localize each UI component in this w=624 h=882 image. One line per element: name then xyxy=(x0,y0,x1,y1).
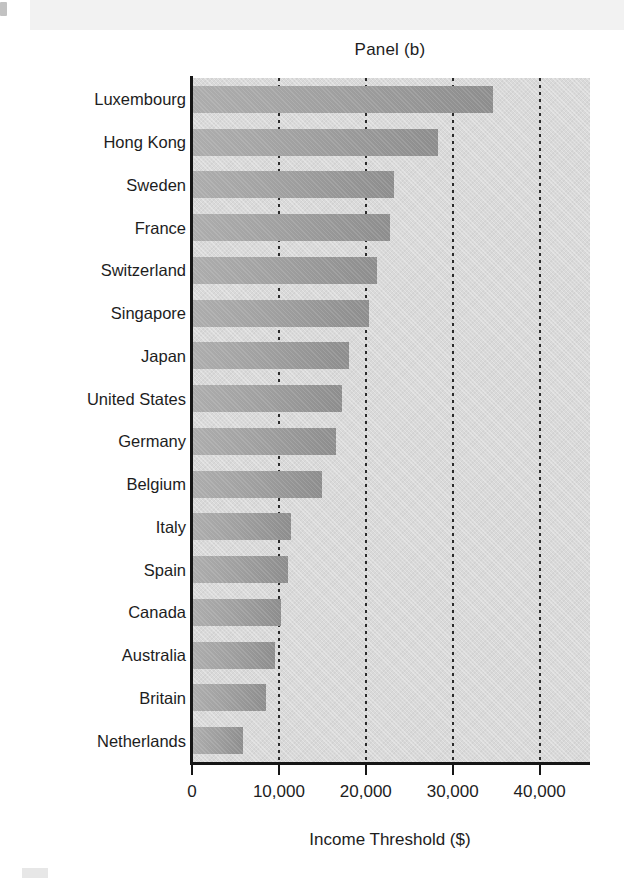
x-tick-10000 xyxy=(278,765,280,775)
bar-united-states xyxy=(193,385,342,412)
bar-texture xyxy=(193,556,288,583)
gridline-40000 xyxy=(539,78,541,762)
category-label-britain: Britain xyxy=(8,688,186,707)
bar-texture xyxy=(193,471,322,498)
bar-hong-kong xyxy=(193,129,438,156)
x-tick-label-40000: 40,000 xyxy=(514,782,566,802)
chart-page: Panel (b) 010,00020,00030,00040,000 Luxe… xyxy=(0,0,624,882)
x-tick-label-0: 0 xyxy=(187,782,196,802)
x-tick-20000 xyxy=(365,765,367,775)
gridline-30000 xyxy=(452,78,454,762)
x-tick-label-10000: 10,000 xyxy=(253,782,305,802)
category-label-netherlands: Netherlands xyxy=(8,731,186,750)
x-tick-30000 xyxy=(452,765,454,775)
bar-germany xyxy=(193,428,336,455)
category-label-spain: Spain xyxy=(8,560,186,579)
bar-texture xyxy=(193,727,243,754)
bar-japan xyxy=(193,342,349,369)
bar-italy xyxy=(193,513,291,540)
category-label-belgium: Belgium xyxy=(8,475,186,494)
bar-belgium xyxy=(193,471,322,498)
category-label-australia: Australia xyxy=(8,646,186,665)
category-label-hong-kong: Hong Kong xyxy=(8,133,186,152)
x-tick-label-20000: 20,000 xyxy=(340,782,392,802)
bar-france xyxy=(193,214,390,241)
y-axis-category-labels: LuxembourgHong KongSwedenFranceSwitzerla… xyxy=(0,0,186,882)
bar-texture xyxy=(193,599,281,626)
category-label-united-states: United States xyxy=(8,389,186,408)
chart-title: Panel (b) xyxy=(190,40,590,60)
bar-luxembourg xyxy=(193,86,493,113)
bar-texture xyxy=(193,642,275,669)
bar-texture xyxy=(193,300,369,327)
category-label-germany: Germany xyxy=(8,432,186,451)
bar-spain xyxy=(193,556,288,583)
bar-singapore xyxy=(193,300,369,327)
bar-texture xyxy=(193,513,291,540)
category-label-luxembourg: Luxembourg xyxy=(8,90,186,109)
bar-texture xyxy=(193,342,349,369)
x-tick-0 xyxy=(191,765,193,775)
x-tick-label-30000: 30,000 xyxy=(427,782,479,802)
bar-switzerland xyxy=(193,257,377,284)
bar-texture xyxy=(193,385,342,412)
category-label-canada: Canada xyxy=(8,603,186,622)
bar-texture xyxy=(193,86,493,113)
x-axis-title: Income Threshold ($) xyxy=(190,830,590,850)
bar-texture xyxy=(193,214,390,241)
x-axis-line xyxy=(190,762,590,765)
bar-britain xyxy=(193,684,266,711)
bar-texture xyxy=(193,684,266,711)
bar-netherlands xyxy=(193,727,243,754)
category-label-singapore: Singapore xyxy=(8,304,186,323)
bar-canada xyxy=(193,599,281,626)
category-label-japan: Japan xyxy=(8,346,186,365)
bar-texture xyxy=(193,428,336,455)
category-label-sweden: Sweden xyxy=(8,175,186,194)
bar-texture xyxy=(193,129,438,156)
bar-texture xyxy=(193,257,377,284)
category-label-france: France xyxy=(8,218,186,237)
category-label-italy: Italy xyxy=(8,517,186,536)
bar-texture xyxy=(193,171,394,198)
bar-sweden xyxy=(193,171,394,198)
y-axis-line xyxy=(190,76,193,764)
x-tick-40000 xyxy=(539,765,541,775)
bar-australia xyxy=(193,642,275,669)
category-label-switzerland: Switzerland xyxy=(8,261,186,280)
